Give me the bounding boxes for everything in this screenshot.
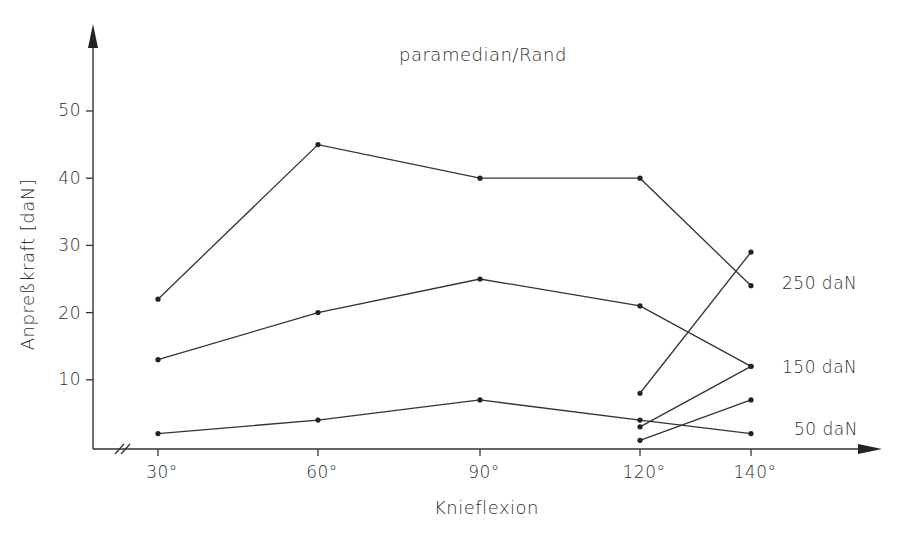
y-ticks [86, 111, 93, 380]
y-axis-label: Anpreßkraft [daN] [17, 135, 38, 395]
data-point [637, 176, 642, 181]
series-line-5 [640, 400, 751, 440]
data-point [637, 424, 642, 429]
series-line-0 [158, 145, 751, 300]
data-point [748, 283, 753, 288]
series-line-4 [640, 366, 751, 426]
x-tick-label-90: 90° [454, 462, 514, 482]
series-line-2 [158, 400, 751, 434]
x-tick-label-120: 120° [614, 462, 674, 482]
x-axis-arrow-icon [858, 444, 882, 454]
x-tick-label-60: 60° [292, 462, 352, 482]
data-point [637, 391, 642, 396]
series-line-3 [640, 252, 751, 393]
y-tick-label-50: 50 [41, 100, 81, 120]
chart-title: paramedian/Rand [399, 44, 567, 65]
data-point [477, 176, 482, 181]
y-tick-label-10: 10 [41, 369, 81, 389]
series-line-1 [158, 279, 751, 366]
y-tick-label-40: 40 [41, 168, 81, 188]
data-point [637, 418, 642, 423]
data-point [477, 276, 482, 281]
data-points [155, 142, 753, 443]
axes [93, 40, 866, 449]
data-point [748, 364, 753, 369]
data-point [477, 397, 482, 402]
data-point [637, 438, 642, 443]
x-tick-label-30: 30° [132, 462, 192, 482]
series-label-50: 50 daN [794, 419, 858, 439]
line-chart [0, 0, 900, 534]
series-lines [158, 145, 751, 441]
data-point [315, 418, 320, 423]
series-label-250: 250 daN [782, 273, 857, 293]
series-label-150: 150 daN [782, 357, 857, 377]
data-point [748, 431, 753, 436]
x-axis-label: Knieflexion [434, 497, 539, 518]
data-point [748, 250, 753, 255]
y-tick-label-20: 20 [41, 303, 81, 323]
x-ticks [158, 449, 751, 456]
data-point [315, 142, 320, 147]
data-point [155, 431, 160, 436]
data-point [748, 397, 753, 402]
x-tick-label-140: 140° [725, 462, 785, 482]
y-tick-label-30: 30 [41, 235, 81, 255]
data-point [155, 357, 160, 362]
y-axis-arrow-icon [88, 24, 98, 48]
data-point [637, 303, 642, 308]
data-point [315, 310, 320, 315]
data-point [155, 297, 160, 302]
